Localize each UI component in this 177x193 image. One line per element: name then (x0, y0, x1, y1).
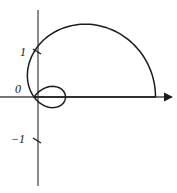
y-tick-label-negative-one: −1 (11, 133, 25, 145)
y-tick-label-one: 1 (20, 46, 26, 58)
horizontal-axis-arrow-icon (164, 93, 173, 102)
polar-plot-figure: 1 0 −1 (0, 0, 177, 193)
tick-mark-negative-one (33, 138, 41, 143)
y-tick-label-zero: 0 (15, 83, 21, 95)
limacon-outer-loop-curve (27, 24, 155, 97)
plot-canvas (0, 0, 177, 193)
